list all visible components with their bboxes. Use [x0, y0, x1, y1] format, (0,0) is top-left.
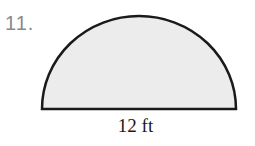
diameter-label: 12 ft: [0, 115, 255, 137]
semicircle-shape: [42, 16, 236, 109]
